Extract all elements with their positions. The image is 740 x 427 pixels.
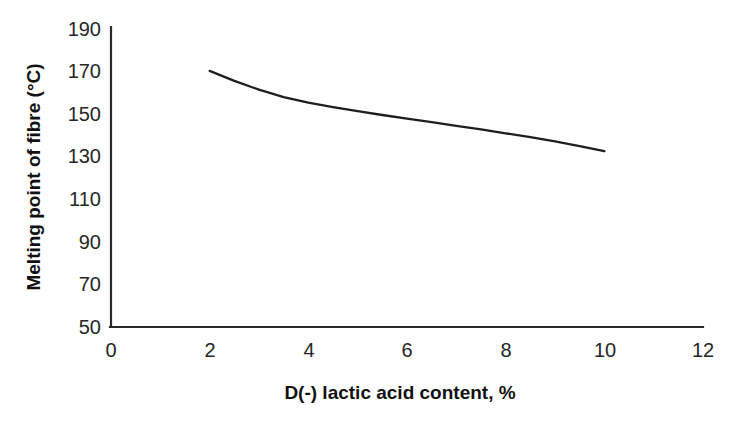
x-tick-label-10: 10 [594,339,616,361]
x-tick-label-12: 12 [692,339,714,361]
y-tick-label-170: 170 [68,60,101,82]
x-tick-label-4: 4 [303,339,314,361]
y-tick-label-50: 50 [79,316,101,338]
y-tick-label-110: 110 [69,188,101,210]
y-axis-title: Melting point of fibre (°C) [23,63,44,290]
chart-svg: 190 170 150 130 110 90 70 50 0 2 4 6 8 1… [0,0,740,427]
chart-figure: 190 170 150 130 110 90 70 50 0 2 4 6 8 1… [0,0,740,427]
x-tick-label-2: 2 [204,339,215,361]
x-tick-label-0: 0 [105,339,116,361]
y-tick-label-70: 70 [79,273,101,295]
y-tick-label-90: 90 [79,231,101,253]
x-axis-title: D(-) lactic acid content, % [284,382,515,403]
data-series-line [210,71,605,151]
y-tick-label-130: 130 [68,145,101,167]
x-tick-label-8: 8 [500,339,511,361]
y-tick-label-150: 150 [68,103,101,125]
x-tick-label-6: 6 [401,339,412,361]
y-tick-label-190: 190 [68,18,101,40]
